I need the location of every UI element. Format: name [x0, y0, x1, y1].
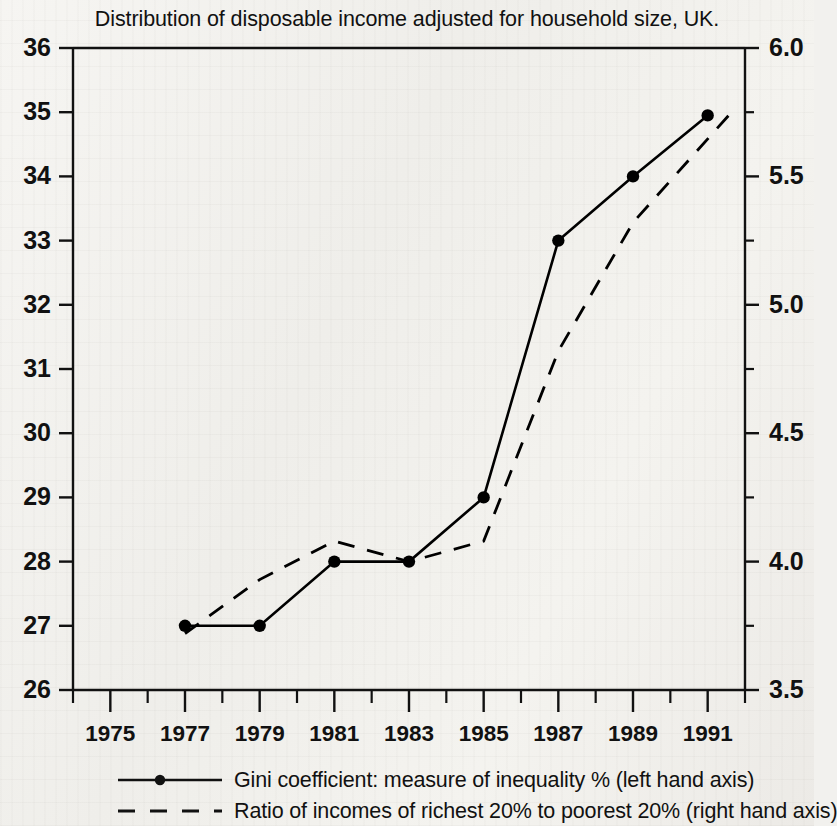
data-point-gini — [701, 109, 713, 121]
data-point-gini — [328, 555, 340, 567]
y-axis-left-tick-label: 26 — [0, 677, 51, 702]
legend-solid-line-icon — [118, 768, 222, 792]
y-axis-left-tick-label: 29 — [0, 484, 51, 509]
y-axis-right-tick-label: 6.0 — [769, 35, 804, 60]
legend-item: Ratio of incomes of richest 20% to poore… — [0, 795, 814, 826]
y-axis-right-tick-label: 4.0 — [769, 549, 804, 574]
data-point-gini — [253, 620, 265, 632]
data-point-gini — [477, 491, 489, 503]
y-axis-left-tick-label: 31 — [0, 356, 51, 381]
y-axis-left-tick-label: 33 — [0, 228, 51, 253]
y-axis-left-tick-label: 28 — [0, 549, 51, 574]
y-axis-left-tick-label: 36 — [0, 35, 51, 60]
chart-legend: Gini coefficient: measure of inequality … — [0, 764, 814, 826]
legend-label: Ratio of incomes of richest 20% to poore… — [234, 799, 837, 823]
legend-dashed-line-icon — [118, 799, 222, 823]
y-axis-left-tick-label: 27 — [0, 613, 51, 638]
legend-label: Gini coefficient: measure of inequality … — [234, 768, 754, 792]
y-axis-right-tick-label: 3.5 — [769, 677, 804, 702]
y-axis-left-tick-label: 34 — [0, 163, 51, 188]
y-axis-right-tick-label: 4.5 — [769, 420, 804, 445]
x-axis-tick-label: 1991 — [663, 723, 753, 745]
y-axis-right-tick-label: 5.5 — [769, 163, 804, 188]
y-axis-left-tick-label: 35 — [0, 99, 51, 124]
series-group — [179, 109, 734, 633]
series-line-gini — [185, 115, 708, 625]
series-line-ratio — [185, 110, 734, 634]
data-point-gini — [552, 234, 564, 246]
y-axis-left-tick-label: 32 — [0, 292, 51, 317]
data-point-gini — [627, 170, 639, 182]
y-axis-left-tick-label: 30 — [0, 420, 51, 445]
y-axis-right-tick-label: 5.0 — [769, 292, 804, 317]
axes-group — [59, 48, 759, 712]
legend-item: Gini coefficient: measure of inequality … — [0, 764, 814, 795]
